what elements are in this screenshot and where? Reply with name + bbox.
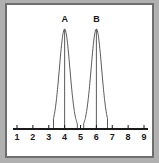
curve-label-b: B	[93, 15, 100, 24]
x-tick-label-6: 6	[94, 133, 99, 142]
distribution-curve-a	[54, 29, 78, 124]
x-tick-label-3: 3	[46, 133, 51, 142]
x-tick-label-5: 5	[78, 133, 83, 142]
x-tick-label-7: 7	[110, 133, 115, 142]
distribution-curve-b	[84, 29, 108, 124]
plot-area-border: AB 123456789	[5, 3, 154, 158]
curves-layer	[54, 29, 108, 129]
figure-frame: AB 123456789	[0, 0, 159, 163]
x-tick-label-9: 9	[141, 133, 146, 142]
x-tick-label-8: 8	[126, 133, 131, 142]
x-tick-label-1: 1	[14, 133, 19, 142]
axis-layer	[13, 125, 148, 129]
x-tick-label-4: 4	[62, 133, 67, 142]
x-tick-label-2: 2	[30, 133, 35, 142]
curve-label-a: A	[61, 15, 68, 24]
